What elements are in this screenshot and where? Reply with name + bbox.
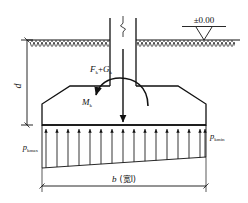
footing-outline bbox=[42, 86, 206, 125]
pressure-max-sub: kmax bbox=[27, 148, 39, 153]
break-line-icon bbox=[121, 16, 126, 37]
depth-dimension-group: d bbox=[12, 40, 33, 125]
pressure-arrow-set bbox=[46, 129, 205, 168]
axial-load-label: Fk+Gk bbox=[89, 64, 113, 75]
moment-M-sub: k bbox=[90, 103, 93, 108]
pressure-max-label: pkmax bbox=[22, 142, 39, 153]
diagram-canvas: ±0.00 Fk+Gk Mk bbox=[0, 0, 248, 203]
pressure-trapezoid-outline bbox=[42, 125, 206, 168]
width-note: (宽l) bbox=[120, 174, 136, 184]
pressure-min-label: pkmin bbox=[209, 131, 225, 142]
width-b: b bbox=[112, 174, 117, 184]
pressure-min-sub: kmin bbox=[214, 137, 225, 142]
soil-hatch-left bbox=[30, 41, 109, 47]
foundation-diagram: ±0.00 Fk+Gk Mk bbox=[0, 0, 248, 203]
depth-label: d bbox=[12, 83, 23, 89]
moment-arc-arrow bbox=[96, 78, 148, 106]
soil-hatch-right bbox=[137, 41, 235, 47]
moment-group: Mk bbox=[81, 78, 148, 108]
width-label: b(宽l) bbox=[112, 174, 136, 184]
ground-surface-group bbox=[27, 40, 240, 47]
datum-triangle-icon bbox=[196, 27, 212, 40]
elevation-datum-group: ±0.00 bbox=[182, 15, 226, 40]
elevation-datum-label: ±0.00 bbox=[194, 15, 215, 25]
moment-label: Mk bbox=[81, 97, 93, 108]
pressure-diagram-group: pkmax pkmin bbox=[22, 125, 225, 168]
footing-group bbox=[42, 86, 206, 125]
axial-load-G-sub: k bbox=[110, 70, 113, 75]
